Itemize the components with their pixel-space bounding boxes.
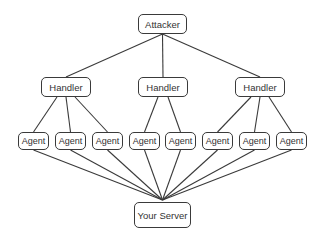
agent-node-4: Agent [129,132,160,150]
agent-node-7: Agent [239,132,270,150]
handler-node-3: Handler [235,77,285,97]
agent-node-1: Agent [18,132,49,150]
handler-node-1: Handler [41,77,91,97]
agent-node-5: Agent [165,132,196,150]
agent-node-8: Agent [276,132,307,150]
server-node: Your Server [134,202,191,228]
attacker-node: Attacker [138,14,187,34]
handler-node-2: Handler [138,77,188,97]
agent-node-3: Agent [92,132,123,150]
agent-node-2: Agent [55,132,86,150]
agent-node-6: Agent [202,132,233,150]
